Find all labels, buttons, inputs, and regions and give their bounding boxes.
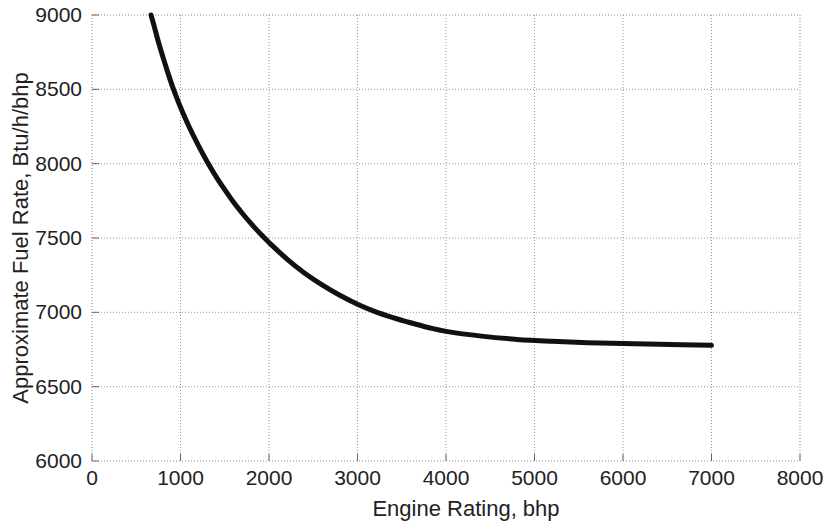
y-tick-label: 6000 [35,449,82,472]
x-tick-label: 4000 [423,466,470,489]
x-tick-label: 8000 [777,466,824,489]
x-tick-label: 1000 [157,466,204,489]
y-tick-label: 7500 [35,226,82,249]
y-tick-label: 8000 [35,152,82,175]
y-tick-label: 9000 [35,3,82,26]
x-tick-label: 5000 [511,466,558,489]
chart-container: 010002000300040005000600070008000 600065… [0,0,833,529]
y-tick-label: 8500 [35,77,82,100]
x-tick-label: 7000 [688,466,735,489]
x-tick-labels: 010002000300040005000600070008000 [86,466,823,489]
x-tick-label: 3000 [334,466,381,489]
x-tick-label: 6000 [600,466,647,489]
fuel-rate-line-chart: 010002000300040005000600070008000 600065… [0,0,833,529]
y-tick-label: 7000 [35,300,82,323]
x-axis-title: Engine Rating, bhp [372,496,559,521]
x-tick-label: 0 [86,466,98,489]
chart-background [0,0,833,529]
y-tick-label: 6500 [35,375,82,398]
y-axis-title: Approximate Fuel Rate, Btu/h/bhp [8,72,33,403]
x-tick-label: 2000 [246,466,293,489]
